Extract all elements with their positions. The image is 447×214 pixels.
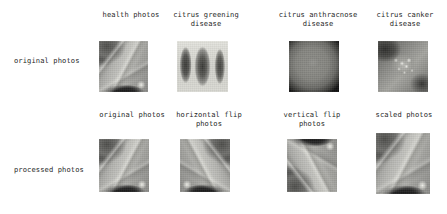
column-caption-citrus-anthracnose-disease: citrus anthracnose disease — [270, 10, 366, 28]
photo-image-greening — [177, 41, 228, 92]
photo-processed-original — [99, 139, 149, 192]
row-label-processed-photos: processed photos — [14, 165, 84, 174]
column-caption-scaled-photos: scaled photos — [362, 110, 446, 119]
photo-image-scaled — [376, 133, 430, 194]
row-label-original-photos: original photos — [14, 56, 80, 65]
photo-image-processed-original — [99, 139, 149, 192]
photo-citrus-anthracnose-fruit — [289, 41, 339, 92]
figure-panel: original photos health photos citrus gre… — [0, 0, 447, 214]
photo-processed-scaled — [376, 133, 430, 194]
photo-processed-horizontal-flip — [180, 139, 230, 192]
photo-image-anthracnose — [289, 41, 339, 92]
photo-image-healthy — [99, 41, 148, 92]
photo-image-vertical-flip — [287, 139, 337, 192]
photo-processed-vertical-flip — [287, 139, 337, 192]
column-caption-horizontal-flip-photos: horizontal flip photos — [164, 110, 254, 128]
column-caption-citrus-canker-disease: citrus canker disease — [364, 10, 446, 28]
photo-healthy-citrus-leaf — [99, 41, 148, 92]
column-caption-processed-original-photos: original photos — [92, 110, 172, 119]
photo-citrus-greening-leaves — [177, 41, 228, 92]
column-caption-citrus-greening-disease: citrus greening disease — [163, 10, 249, 28]
photo-image-horizontal-flip — [180, 139, 230, 192]
column-caption-health-photos: health photos — [92, 10, 170, 19]
photo-image-canker — [378, 41, 428, 92]
photo-citrus-canker-lesion — [378, 41, 428, 92]
column-caption-vertical-flip-photos: vertical flip photos — [272, 110, 352, 128]
